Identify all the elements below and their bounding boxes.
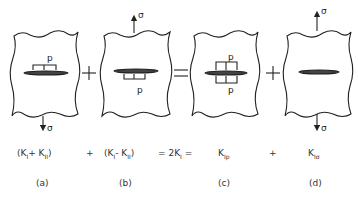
eq-term-b: (KI- KII): [104, 148, 134, 160]
pressure-label-a: p: [47, 53, 53, 63]
stress-label-d-top: σ: [321, 6, 327, 16]
pressure-label-c-top: p: [228, 52, 234, 62]
panel-label-d: (d): [309, 178, 322, 188]
equals-operator: [174, 70, 188, 76]
eq-plus-2: +: [269, 148, 277, 158]
eq-term-d: KIσ: [308, 148, 319, 160]
panel-label-c: (c): [218, 178, 230, 188]
panel-a-plate: [10, 31, 80, 128]
eq-plus-1: +: [86, 148, 94, 158]
pressure-label-b: p: [137, 85, 143, 95]
panel-label-b: (b): [119, 178, 132, 188]
plus-operator-2: [266, 66, 280, 80]
plus-operator-1: [82, 66, 96, 80]
eq-2ki: = 2KI =: [158, 148, 192, 160]
pressure-label-c-bottom: p: [228, 85, 234, 95]
stress-label-b: σ: [138, 10, 144, 20]
panel-b-plate: [100, 18, 172, 117]
stress-label-d-bottom: σ: [321, 123, 327, 133]
panel-d-plate: [283, 14, 353, 128]
panel-label-a: (a): [36, 178, 49, 188]
panel-c-plate: [190, 31, 260, 117]
stress-label-a: σ: [47, 123, 53, 133]
superposition-diagram: p p p p σ σ σ σ: [0, 0, 358, 197]
eq-term-c: KIp: [218, 148, 229, 160]
eq-term-a: (KI+ KII): [17, 148, 52, 160]
